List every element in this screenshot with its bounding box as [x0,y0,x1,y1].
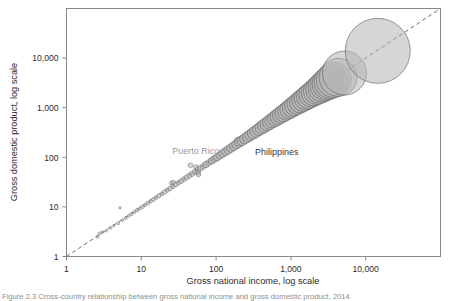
x-tick-label: 10,000 [353,264,380,274]
x-tick-label: 10 [137,264,147,274]
y-tick-label: 100 [44,153,59,163]
data-point [101,231,104,234]
data-point [96,235,99,238]
x-tick-label: 100 [209,264,224,274]
data-point [188,163,193,168]
data-point [196,172,201,177]
data-point [130,212,133,215]
scatter-chart: 1101001,00010,000 1101001,00010,000 Puer… [0,0,453,301]
data-point [127,214,130,217]
x-axis-title: Gross national income, log scale [187,276,320,286]
point-annotation-label: Philippines [255,147,299,157]
data-point [345,18,410,83]
data-point [119,207,121,209]
data-point [113,224,116,227]
data-point [98,232,101,235]
x-tick-label: 1 [64,264,69,274]
y-tick-label: 1,000 [37,103,59,113]
data-point [109,226,112,229]
data-point [105,229,108,232]
data-point [117,222,120,225]
data-point [124,216,127,219]
y-tick-label: 10,000 [32,53,59,63]
x-axis-ticks: 1101001,00010,000 [64,257,379,274]
point-annotation-label: Puerto Rico [172,146,219,156]
y-tick-label: 1 [54,252,59,262]
figure-caption: Figure 2.3 Cross-country relationship be… [2,292,350,301]
data-point [121,219,124,222]
figure-container: 1101001,00010,000 1101001,00010,000 Puer… [0,0,453,301]
y-axis-ticks: 1101001,00010,000 [32,53,66,261]
y-axis-title: Gross domestic product, log scale [9,63,19,201]
x-tick-label: 1,000 [280,264,302,274]
y-tick-label: 10 [49,202,59,212]
